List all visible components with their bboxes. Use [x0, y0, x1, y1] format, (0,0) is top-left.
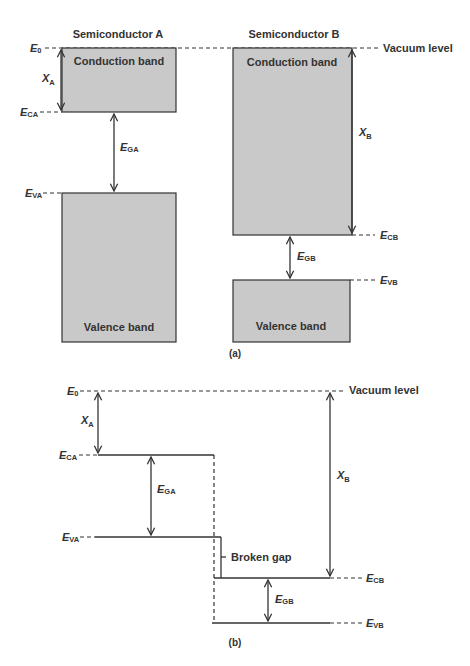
eca-label-b: ECA: [59, 449, 78, 462]
conduction-band-b-label: Conduction band: [247, 56, 337, 68]
valence-band-b: [233, 280, 350, 342]
egb-label-b: EGB: [275, 593, 294, 606]
egb-label-a: EGB: [297, 250, 316, 263]
chi-a-label-b: XA: [80, 414, 94, 429]
semiconductor-b-title: Semiconductor B: [248, 28, 339, 40]
eca-label-a: ECA: [20, 106, 39, 119]
ega-label-a: EGA: [120, 141, 139, 154]
panel-a: Semiconductor A Semiconductor B Vacuum l…: [20, 28, 453, 359]
vacuum-level-label-b: Vacuum level: [349, 384, 419, 396]
ecb-label-b: ECB: [366, 572, 385, 585]
ega-label-b: EGA: [157, 483, 176, 496]
valence-band-a: [62, 193, 176, 342]
panel-a-caption: (a): [229, 348, 241, 359]
valence-band-b-label: Valence band: [256, 320, 326, 332]
conduction-band-a-label: Conduction band: [74, 55, 164, 67]
chi-b-label: XB: [358, 126, 372, 141]
conduction-band-b: [233, 48, 352, 235]
e0-label-a: E0: [30, 42, 42, 55]
band-diagram: Semiconductor A Semiconductor B Vacuum l…: [0, 0, 470, 666]
eva-label-b: EVA: [62, 531, 80, 544]
chi-b-label-b: XB: [336, 469, 350, 484]
e0-label-b: E0: [67, 385, 79, 398]
semiconductor-a-title: Semiconductor A: [73, 28, 164, 40]
evb-label-b: EVB: [366, 617, 384, 630]
chi-a-label: XA: [41, 72, 55, 87]
broken-gap-label: Broken gap: [231, 551, 292, 563]
panel-b-caption: (b): [229, 637, 242, 648]
eva-label-a: EVA: [25, 187, 43, 200]
ecb-label-a: ECB: [380, 229, 399, 242]
evb-label-a: EVB: [380, 274, 398, 287]
valence-band-a-label: Valence band: [84, 321, 154, 333]
vacuum-level-label-a: Vacuum level: [383, 42, 453, 54]
panel-b: Vacuum level E0 XA ECA EGA EVA Broken ga…: [59, 384, 419, 648]
